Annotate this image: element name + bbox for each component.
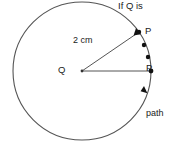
diagram-canvas — [0, 0, 169, 142]
radius-measure-label: 2 cm — [73, 36, 93, 45]
geometry-diagram: If Q is 2 cm Q P P path of P — [0, 0, 169, 142]
point-marker-p-position-2 — [142, 43, 146, 47]
path-of-p-line-2: of P — [146, 141, 164, 142]
point-marker-p-position-3 — [146, 55, 150, 59]
path-of-p-line-1: path — [146, 108, 164, 119]
path-of-p-label: path of P — [146, 85, 164, 142]
center-point-marker — [81, 70, 84, 73]
center-point-label-q: Q — [58, 65, 65, 75]
point-label-p-upper: P — [145, 26, 151, 36]
heading-text: If Q is — [118, 1, 143, 11]
point-label-p-right: P — [146, 63, 152, 73]
